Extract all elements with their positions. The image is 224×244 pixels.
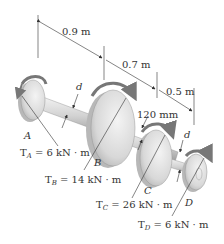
disk-d-label: D: [185, 198, 193, 208]
diameter-label-ab: d: [76, 82, 82, 92]
disk-a-label: A: [24, 131, 31, 141]
disk-b-label: B: [94, 158, 101, 168]
dimension-ab-label: 0.9 m: [62, 27, 91, 37]
diameter-label-cd: d: [184, 130, 190, 140]
torque-d-label: TD = 6 kN · m: [138, 220, 208, 232]
shaft-diagram: 0.9 m 0.7 m 0.5 m 120 mm d d A B C D TA …: [0, 0, 224, 244]
gear-offset-label: 120 mm: [137, 110, 178, 120]
disk-d: [182, 151, 210, 192]
torque-b-label: TB = 14 kN · m: [45, 175, 121, 187]
dimension-cd-label: 0.5 m: [166, 87, 195, 97]
torque-a-label: TA = 6 kN · m: [20, 148, 90, 160]
disk-c-label: C: [144, 186, 152, 196]
torque-c-label: TC = 26 kN · m: [96, 200, 173, 212]
disk-b: [86, 83, 135, 168]
dimension-bc-label: 0.7 m: [122, 60, 151, 70]
disk-a: [18, 77, 46, 123]
